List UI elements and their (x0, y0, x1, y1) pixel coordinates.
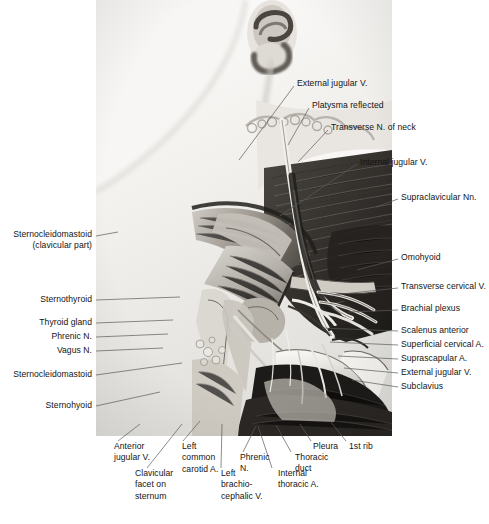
label-phrenic-nerve-left: Phrenic N. (51, 331, 92, 342)
label-sternothyroid: Sternothyroid (40, 294, 92, 305)
label-brachial-plexus: Brachial plexus (401, 303, 460, 314)
label-line: Platysma reflected (312, 100, 384, 111)
label-subclavius: Subclavius (401, 381, 443, 392)
label-thyroid-gland: Thyroid gland (39, 317, 92, 328)
label-omohyoid: Omohyoid (401, 252, 441, 263)
label-sternocleidomastoid-clavicular-part: Sternocleidomastoid(clavicular part) (13, 229, 92, 252)
label-sternohyoid: Sternohyoid (46, 400, 92, 411)
neck-dissection-photograph (96, 0, 392, 436)
label-line: Supraclavicular Nn. (401, 192, 476, 203)
label-line: (clavicular part) (13, 240, 92, 251)
label-transverse-nerve-of-neck: Transverse N. of neck (331, 122, 416, 133)
label-vagus-nerve: Vagus N. (57, 345, 92, 356)
label-line: Thyroid gland (39, 317, 92, 328)
label-line: Scalenus anterior (401, 325, 469, 336)
label-line: Internal jugular V. (360, 157, 428, 168)
label-line: External jugular V. (297, 78, 367, 89)
label-line: Sternocleidomastoid (13, 369, 92, 380)
label-internal-jugular-vein: Internal jugular V. (360, 157, 428, 168)
label-line: Sternohyoid (46, 400, 92, 411)
label-platysma-reflected: Platysma reflected (312, 100, 384, 111)
label-line: Brachial plexus (401, 303, 460, 314)
anatomy-figure: External jugular V.Platysma reflectedTra… (0, 0, 489, 524)
label-suprascapular-artery: Suprascapular A. (401, 353, 467, 364)
label-line: Superficial cervical A. (401, 339, 484, 350)
label-supraclavicular-nerves: Supraclavicular Nn. (401, 192, 476, 203)
label-scalenus-anterior: Scalenus anterior (401, 325, 469, 336)
label-transverse-cervical-vein: Transverse cervical V. (401, 281, 486, 292)
label-line: Transverse cervical V. (401, 281, 486, 292)
label-line: Omohyoid (401, 252, 441, 263)
label-sternocleidomastoid: Sternocleidomastoid (13, 369, 92, 380)
label-line: Sternothyroid (40, 294, 92, 305)
label-line: Transverse N. of neck (331, 122, 416, 133)
label-line: Sternocleidomastoid (13, 229, 92, 240)
label-external-jugular-vein-upper: External jugular V. (297, 78, 367, 89)
label-external-jugular-vein-lower: External jugular V. (401, 367, 471, 378)
label-line: Subclavius (401, 381, 443, 392)
label-line: Vagus N. (57, 345, 92, 356)
label-superficial-cervical-artery: Superficial cervical A. (401, 339, 484, 350)
label-line: Suprascapular A. (401, 353, 467, 364)
label-line: Phrenic N. (51, 331, 92, 342)
label-line: External jugular V. (401, 367, 471, 378)
